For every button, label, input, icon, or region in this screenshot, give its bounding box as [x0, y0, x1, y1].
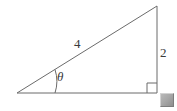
theta-angle-label: θ [57, 70, 63, 83]
hypotenuse-label: 4 [74, 37, 81, 50]
right-angle-marker-icon [147, 83, 157, 93]
opposite-side-label: 2 [160, 46, 167, 59]
resize-handle[interactable] [160, 93, 174, 107]
triangle-graphic [0, 0, 177, 111]
triangle-diagram: 4 2 θ [0, 0, 177, 111]
hypotenuse-line [17, 6, 157, 93]
